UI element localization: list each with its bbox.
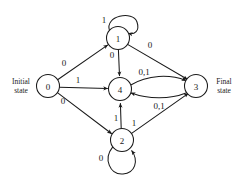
edge-0-to-4	[59, 87, 107, 88]
edge-label-2-self-loop: 0	[99, 153, 104, 163]
edge-2-to-4	[120, 104, 121, 129]
edge-label-2-to-4: 1	[114, 113, 119, 123]
edge-label-2-to-3: 1	[132, 118, 137, 128]
edge-1-to-3	[128, 45, 187, 80]
edge-label-0-to-2: 0	[61, 96, 66, 106]
edge-label-1-self-loop: 1	[102, 15, 107, 25]
edge-label-3-to-4: 0,1	[153, 101, 164, 111]
edge-label-0-to-4: 1	[76, 75, 81, 85]
state-diagram-figure: 0 1 4 2 3 0 1 0 1 0 0 0,1 0,1 0 1 1 Init…	[0, 0, 244, 187]
edge-4-to-3	[130, 76, 186, 85]
edge-label-0-to-1: 0	[62, 58, 67, 68]
edge-label-1-to-3: 0	[148, 40, 153, 50]
state-node-4-label: 4	[118, 85, 123, 95]
final-state-label: Final state	[207, 77, 241, 96]
edge-3-to-4	[131, 93, 186, 98]
state-node-3-label: 3	[194, 82, 199, 92]
state-node-2-label: 2	[120, 136, 125, 146]
initial-state-label: Initial state	[4, 77, 38, 96]
edge-2-to-3	[132, 94, 188, 134]
edge-0-to-2	[57, 93, 111, 134]
edge-label-1-to-4: 0	[110, 50, 115, 60]
edge-label-4-to-3: 0,1	[138, 67, 149, 77]
state-node-0-label: 0	[46, 82, 51, 92]
edge-1-to-4	[118, 50, 119, 76]
state-node-1-label: 1	[116, 34, 121, 44]
